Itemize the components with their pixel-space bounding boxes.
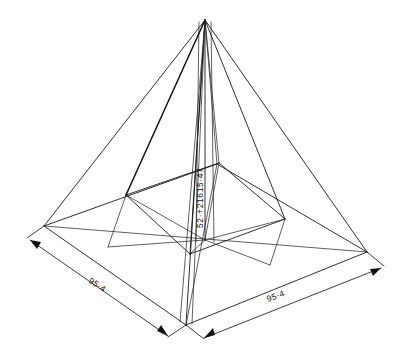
- base-edge-back-left: [44, 164, 217, 226]
- subpanel-line-right: [270, 219, 285, 265]
- base-edge-back-right: [217, 164, 367, 252]
- ext-line-right-start: [367, 252, 384, 266]
- base-outline: [44, 164, 367, 325]
- apex-inner-right: [205, 20, 285, 219]
- pyramid-isometric-drawing: 95·4 95·4 52·+21615·47: [0, 0, 410, 354]
- dimension-right: 95·4: [186, 252, 384, 339]
- center-ray-right: [205, 219, 285, 240]
- dim-arrowhead-right-end: [204, 328, 215, 338]
- dimension-label-height: 52·+21615·47: [195, 168, 205, 228]
- inner-edge-back-right: [219, 163, 285, 219]
- dimension-left: 95·4: [27, 226, 186, 337]
- dim-line-right: [204, 268, 381, 338]
- lateral-edge-apex-left: [44, 20, 205, 226]
- lateral-edge-apex-right: [205, 20, 367, 252]
- dimension-height: 52·+21615·47: [195, 168, 205, 228]
- technical-drawing-canvas: 95·4 95·4 52·+21615·47: [0, 0, 410, 354]
- dim-arrowhead-right-start: [370, 268, 381, 276]
- ext-line-right-end: [186, 325, 204, 339]
- dimension-label-left: 95·4: [87, 275, 108, 294]
- subpanel-line-left: [108, 195, 126, 247]
- apex-inner-edges: [126, 20, 285, 254]
- dim-arrowhead-left-start: [30, 240, 41, 249]
- dim-arrowhead-left-end: [157, 325, 168, 336]
- vertical-height-line-offset-2: [211, 22, 214, 242]
- apex-inner-left: [126, 20, 205, 195]
- ext-line-left-start: [27, 226, 44, 238]
- base-edge-front-left: [44, 226, 186, 325]
- center-ray-back: [205, 163, 219, 240]
- ext-line-left-end: [168, 325, 186, 337]
- dimension-label-right: 95·4: [265, 288, 286, 304]
- base-edge-front-right: [186, 252, 367, 325]
- center-ray-front: [190, 240, 205, 254]
- base-diagonals: [44, 164, 367, 325]
